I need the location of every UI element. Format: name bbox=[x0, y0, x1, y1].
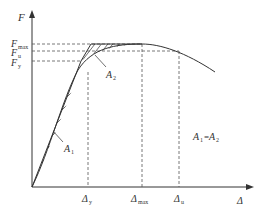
svg-text:Δ: Δ bbox=[130, 193, 137, 204]
svg-text:2: 2 bbox=[216, 137, 219, 143]
hatch-area-a2 bbox=[78, 28, 138, 66]
svg-text:A: A bbox=[63, 143, 71, 154]
svg-text:Δ: Δ bbox=[81, 193, 88, 204]
svg-text:u: u bbox=[18, 53, 21, 59]
x-axis-label: Δ bbox=[236, 195, 243, 206]
svg-text:A: A bbox=[208, 131, 216, 142]
svg-text:F: F bbox=[10, 57, 18, 68]
a2-leader bbox=[95, 55, 106, 67]
svg-text:y: y bbox=[89, 199, 92, 205]
y-axis-label: F bbox=[17, 11, 25, 23]
area-label-a1: A 1 bbox=[63, 143, 74, 155]
bilinear-line bbox=[32, 44, 142, 187]
svg-text:u: u bbox=[181, 199, 184, 205]
x-tick-delta-u: Δ u bbox=[173, 193, 184, 205]
svg-text:max: max bbox=[18, 44, 28, 50]
hatch-area-a1 bbox=[20, 60, 104, 200]
svg-text:y: y bbox=[18, 63, 21, 69]
svg-text:1: 1 bbox=[200, 137, 203, 143]
a1-leader bbox=[53, 131, 63, 142]
equal-area-equation: A 1 = A 2 bbox=[192, 131, 219, 143]
y-axis bbox=[29, 10, 35, 187]
x-axis bbox=[32, 184, 254, 190]
x-tick-delta-y: Δ y bbox=[81, 193, 92, 205]
area-label-a2: A 2 bbox=[105, 69, 116, 81]
svg-text:max: max bbox=[138, 199, 148, 205]
svg-text:A: A bbox=[105, 69, 113, 80]
equal-area-diagram: F Δ F max F u F y Δ y Δ max Δ u A 1 A 2 … bbox=[0, 0, 262, 216]
svg-text:Δ: Δ bbox=[173, 193, 180, 204]
svg-text:1: 1 bbox=[71, 149, 74, 155]
x-tick-delta-max: Δ max bbox=[130, 193, 148, 205]
force-displacement-curve bbox=[32, 44, 215, 187]
svg-text:A: A bbox=[192, 131, 200, 142]
svg-text:2: 2 bbox=[113, 75, 116, 81]
reference-lines bbox=[32, 44, 179, 187]
